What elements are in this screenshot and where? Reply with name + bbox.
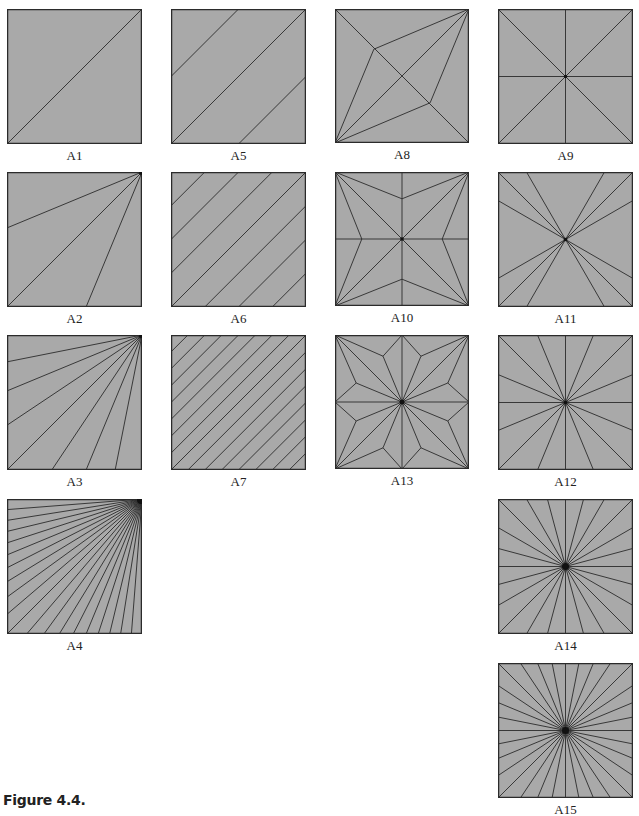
panel-a5: A5 (171, 9, 306, 166)
panel-label: A11 (498, 311, 633, 327)
panel-label: A15 (498, 802, 633, 816)
panel-label: A5 (171, 148, 306, 164)
panel-a7: A7 (171, 335, 306, 492)
panel-label: A2 (7, 311, 142, 327)
panel-a2: A2 (7, 172, 142, 329)
panel-label: A12 (498, 474, 633, 490)
panel-a1: A1 (7, 9, 142, 166)
panel-label: A3 (7, 474, 142, 490)
panel-a10: A10 (335, 172, 469, 328)
panel-a6: A6 (171, 172, 306, 329)
crease-pattern-a10 (335, 172, 469, 306)
crease-pattern-a2 (7, 172, 142, 307)
crease-pattern-a11 (498, 172, 633, 307)
crease-pattern-a3 (7, 335, 142, 470)
panel-a13: A13 (335, 335, 469, 491)
panel-a15: A15 (498, 663, 633, 816)
panel-a8: A8 (335, 9, 469, 165)
crease-pattern-a8 (335, 9, 469, 143)
crease-pattern-a6 (171, 172, 306, 307)
panel-a9: A9 (498, 9, 633, 166)
panel-a4: A4 (7, 499, 142, 656)
panel-label: A8 (335, 147, 469, 163)
crease-pattern-a1 (7, 9, 142, 144)
panel-label: A7 (171, 474, 306, 490)
crease-pattern-a13 (335, 335, 469, 469)
figure-caption: Figure 4.4. (3, 792, 85, 808)
crease-pattern-a4 (7, 499, 142, 634)
crease-pattern-a15 (498, 663, 633, 798)
panel-label: A13 (335, 473, 469, 489)
crease-pattern-a7 (171, 335, 306, 470)
panel-label: A9 (498, 148, 633, 164)
panel-label: A1 (7, 148, 142, 164)
panel-label: A14 (498, 638, 633, 654)
crease-pattern-a14 (498, 499, 633, 634)
panel-a3: A3 (7, 335, 142, 492)
panel-a14: A14 (498, 499, 633, 656)
panel-label: A4 (7, 638, 142, 654)
panel-label: A6 (171, 311, 306, 327)
panel-a12: A12 (498, 335, 633, 492)
panel-label: A10 (335, 310, 469, 326)
crease-pattern-a9 (498, 9, 633, 144)
crease-pattern-a12 (498, 335, 633, 470)
panel-a11: A11 (498, 172, 633, 329)
crease-pattern-a5 (171, 9, 306, 144)
